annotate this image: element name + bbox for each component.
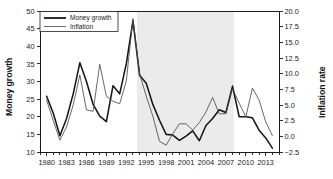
y-tick-label-left: 25 [26,95,34,104]
x-tick-label: 1986 [78,158,94,167]
x-tick-label: 2001 [178,158,194,167]
legend: Money growth Inflation [40,12,118,32]
y-tick-label-left: 35 [26,60,34,69]
x-tick-label: 1980 [38,158,54,167]
chart-container: 50454035302520151020.017.515.012.510.07.… [0,0,333,179]
y-tick-label-right: 12.5 [285,54,299,63]
x-tick-label: 1998 [158,158,174,167]
y-tick-label-left: 15 [26,130,34,139]
y-tick-label-right: 2.5 [285,116,295,125]
y-tick-label-right: 5.0 [285,101,295,110]
y-tick-label-right: 15.0 [285,38,299,47]
chart-svg: 50454035302520151020.017.515.012.510.07.… [0,0,333,179]
y-tick-label-left: 40 [26,42,34,51]
x-tick-label: 1989 [98,158,114,167]
legend-label-money-growth: Money growth [70,14,112,22]
y-tick-label-left: 20 [26,112,34,121]
recession-shading [137,11,234,152]
y-tick-label-right: 0.0 [285,132,295,141]
y-tick-label-right: 20.0 [285,7,299,16]
y-tick-label-right: 17.5 [285,22,299,31]
x-tick-label: 1983 [58,158,74,167]
x-tick-label: 1995 [138,158,154,167]
x-tick-label: 2010 [238,158,254,167]
y-tick-label-left: 45 [26,24,34,33]
x-tick-label: 2007 [218,158,234,167]
y-tick-label-right: 7.5 [285,85,295,94]
y-axis-left-title: Money growth [4,58,14,116]
y-tick-label-left: 50 [26,7,34,16]
y-axis-right-title: Inflation rate [317,66,327,118]
x-tick-label: 1992 [118,158,134,167]
shaded-period-band [137,11,234,152]
legend-label-inflation: Inflation [70,23,93,30]
y-tick-label-left: 10 [26,148,34,157]
y-tick-label-right: 10.0 [285,69,299,78]
x-tick-label: 2013 [257,158,273,167]
x-tick-label: 2004 [198,158,214,167]
y-tick-label-left: 30 [26,77,34,86]
y-tick-label-right: −2.5 [285,148,300,157]
